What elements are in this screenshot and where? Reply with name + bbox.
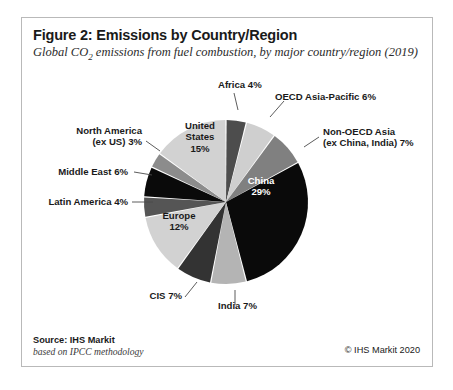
slice-label-middle-east: Middle East 6% — [22, 166, 128, 177]
slice-label-north-america-line1: North America — [22, 125, 142, 136]
copyright-text: © IHS Markit 2020 — [345, 345, 420, 355]
slice-label-non-oecd-asia-line2: (ex China, India) 7% — [323, 137, 414, 148]
source-text: Source: IHS Markit — [33, 335, 115, 345]
slice-label-china-line1: China — [237, 175, 285, 186]
slice-label-oecd-asia-pacific: OECD Asia-Pacific 6% — [275, 91, 376, 102]
figure-subtitle: Global CO2 emissions from fuel combustio… — [33, 45, 418, 62]
slice-label-united-states-line1: United — [174, 120, 226, 131]
figure-screenshot: Figure 2: Emissions by Country/Region Gl… — [0, 0, 453, 390]
figure-title: Figure 2: Emissions by Country/Region — [33, 27, 297, 43]
leader-oecd-asia-pacific — [270, 101, 284, 117]
leader-non-oecd-asia — [304, 137, 319, 147]
slice-label-china-line2: 29% — [237, 186, 285, 197]
slice-label-cis: CIS 7% — [122, 290, 182, 301]
slice-label-non-oecd-asia: Non-OECD Asia (ex China, India) 7% — [323, 126, 414, 149]
slice-label-india: India 7% — [218, 300, 257, 311]
slice-label-united-states-line2: States — [174, 131, 226, 142]
slice-label-north-america: North America (ex US) 3% — [22, 125, 142, 148]
slice-label-europe: Europe 12% — [153, 210, 205, 233]
slice-label-non-oecd-asia-line1: Non-OECD Asia — [323, 126, 414, 137]
leader-africa — [234, 93, 238, 110]
leader-north-america — [146, 141, 160, 151]
slice-label-europe-line1: Europe — [153, 210, 205, 221]
methodology-text: based on IPCC methodology — [33, 346, 144, 357]
slice-label-united-states-line3: 15% — [174, 143, 226, 154]
slice-label-latin-america: Latin America 4% — [22, 196, 128, 207]
slice-label-united-states: United States 15% — [174, 120, 226, 154]
pie-chart: Africa 4% OECD Asia-Pacific 6% Non-OECD … — [22, 75, 432, 330]
slice-label-china: China 29% — [237, 175, 285, 198]
slice-label-africa: Africa 4% — [218, 79, 262, 90]
subtitle-post: emissions from fuel combustion, by major… — [93, 45, 418, 59]
slice-label-north-america-line2: (ex US) 3% — [22, 136, 142, 147]
leader-cis — [185, 282, 197, 297]
slice-label-europe-line2: 12% — [153, 221, 205, 232]
pie-slices — [144, 120, 308, 284]
subtitle-pre: Global CO — [33, 45, 88, 59]
